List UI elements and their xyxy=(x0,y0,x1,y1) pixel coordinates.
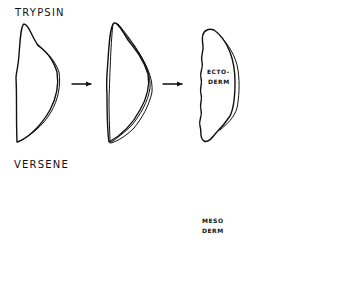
mesoderm-label-line1: MESO xyxy=(202,217,224,225)
diagram-svg xyxy=(0,0,348,306)
mesoderm-label-line2: DERM xyxy=(202,227,224,235)
diagram-canvas: TRYPSIN VERSENE xyxy=(0,0,348,306)
ectoderm-label-line2: DERM xyxy=(208,78,230,86)
trypsin-stage-1-shape xyxy=(16,24,60,142)
ectoderm-label-line1: ECTO- xyxy=(207,68,230,76)
trypsin-stage-2-shape xyxy=(107,23,153,143)
